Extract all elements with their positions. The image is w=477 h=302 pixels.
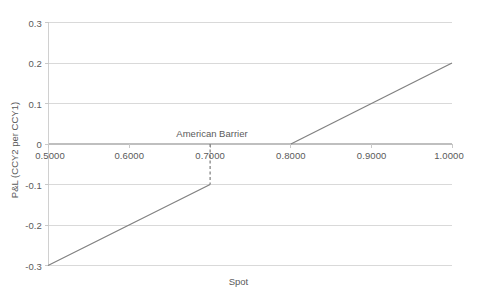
y-axis-ticks: [45, 23, 49, 266]
x-tick-label-1: 0.6000: [114, 150, 144, 161]
x-tick-label-2: 0.7000: [195, 150, 225, 161]
x-tick-label-3: 0.8000: [276, 150, 306, 161]
x-tick-label-0: 0.5000: [35, 150, 65, 161]
chart-plot-svg: [0, 0, 477, 302]
x-tick-label-5: 1.0000: [434, 150, 464, 161]
y-tick-label-5: -0.2: [14, 220, 42, 231]
x-tick-label-4: 0.9000: [357, 150, 387, 161]
american-barrier-annotation: American Barrier: [176, 128, 247, 139]
y-tick-label-6: -0.3: [14, 260, 42, 271]
y-tick-label-1: 0.2: [14, 58, 42, 69]
x-axis-ticks: [49, 144, 453, 148]
y-axis-title: P&L (CCY2 per CCY1): [9, 102, 20, 198]
chart-container: 0.3 0.2 0.1 0 -0.1 -0.2 -0.3 0.5000 0.60…: [0, 0, 477, 302]
y-tick-label-0: 0.3: [14, 17, 42, 28]
x-axis-title: Spot: [0, 276, 477, 287]
